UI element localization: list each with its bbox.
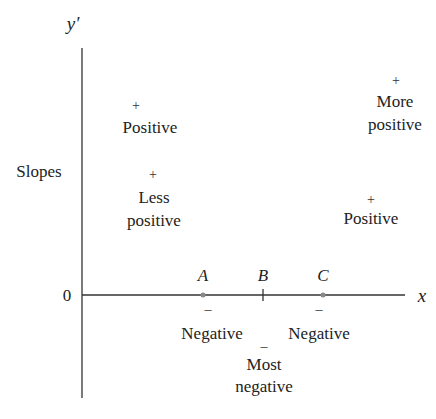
annotation-more-positive-line2: positive xyxy=(368,115,422,135)
annotation-positive-right: Positive xyxy=(344,209,399,229)
x-axis-label: x xyxy=(418,286,426,306)
annotation-positive-left: Positive xyxy=(123,118,178,138)
annotation-most-negative-line1: Most xyxy=(247,355,282,375)
plus-sign: + xyxy=(132,99,140,113)
annotation-less-positive-line1: Less xyxy=(138,188,169,208)
zero-label: 0 xyxy=(63,286,72,306)
annotation-negative-a: Negative xyxy=(181,324,242,344)
point-a-label: A xyxy=(198,266,208,286)
minus-sign: – xyxy=(205,303,212,317)
annotation-more-positive-line1: More xyxy=(377,92,414,112)
minus-sign: – xyxy=(316,303,323,317)
point-c-dot xyxy=(321,293,326,298)
annotation-negative-c: Negative xyxy=(288,324,349,344)
plus-sign: + xyxy=(367,193,375,207)
minus-sign: – xyxy=(261,340,268,354)
annotation-most-negative-line2: negative xyxy=(235,377,293,397)
y-axis-title: Slopes xyxy=(16,162,61,182)
plus-sign: + xyxy=(392,74,400,88)
point-b-label: B xyxy=(258,266,268,286)
y-axis-label: y′ xyxy=(67,14,80,34)
plus-sign: + xyxy=(149,168,157,182)
point-c-label: C xyxy=(317,266,328,286)
point-a-dot xyxy=(201,293,206,298)
annotation-less-positive-line2: positive xyxy=(127,211,181,231)
